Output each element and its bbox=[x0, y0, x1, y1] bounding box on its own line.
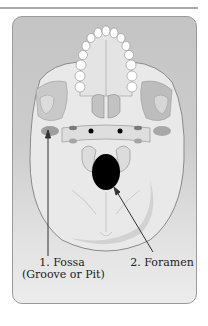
label-foramen-title: 2. Foramen bbox=[126, 257, 198, 269]
label-foramen: 2. Foramen bbox=[126, 257, 198, 269]
label-fossa-subtitle: (Groove or Pit) bbox=[22, 269, 102, 281]
foramen-magnum bbox=[92, 154, 120, 190]
fossa bbox=[41, 126, 59, 136]
label-fossa: 1. Fossa (Groove or Pit) bbox=[22, 257, 102, 281]
